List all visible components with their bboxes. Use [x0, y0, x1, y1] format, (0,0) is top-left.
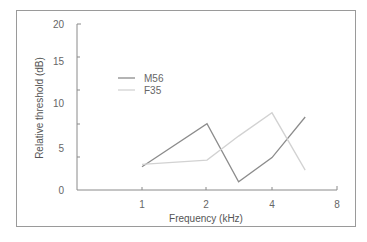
- x-tick-label-1: 1: [139, 199, 145, 210]
- x-axis-title: Frequency (kHz): [169, 213, 243, 224]
- x-tick-label-8: 8: [334, 199, 340, 210]
- legend: M56 F35: [118, 73, 164, 96]
- y-tick-label-10: 10: [53, 98, 65, 109]
- y-axis: [77, 24, 81, 190]
- y-tick-label-15: 15: [53, 56, 65, 67]
- y-tick-label-5: 5: [58, 143, 64, 154]
- legend-label-f35: F35: [144, 85, 162, 96]
- x-axis: [77, 186, 337, 190]
- x-tick-label-2: 2: [203, 199, 209, 210]
- legend-label-m56: M56: [144, 73, 164, 84]
- line-chart: 20 15 10 5 0 1 2 4 8 Frequency (kHz) Rel…: [0, 0, 367, 242]
- y-tick-label-20: 20: [53, 19, 65, 30]
- y-tick-label-0: 0: [58, 185, 64, 196]
- y-axis-title: Relative threshold (dB): [34, 57, 45, 159]
- x-tick-label-4: 4: [269, 199, 275, 210]
- series-line-f35: [142, 113, 305, 170]
